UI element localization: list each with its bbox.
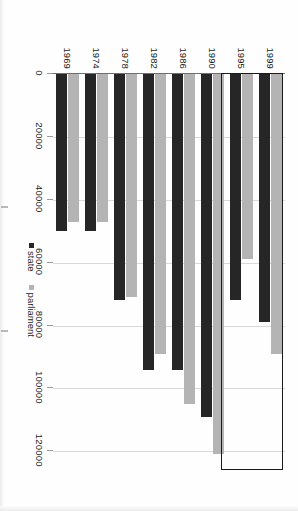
bar-parliament-1990 (213, 74, 224, 454)
bar-parliament-1999 (271, 74, 282, 354)
legend-swatch-state (29, 243, 34, 248)
value-tick-label-120000: 120000 (34, 433, 45, 466)
value-tick (47, 198, 53, 199)
bar-state-1986 (172, 74, 183, 370)
category-label-1982: 1982 (150, 31, 160, 69)
value-tick-label-20000: 20000 (34, 122, 45, 149)
category-label-1969: 1969 (63, 31, 73, 69)
plot-area (53, 73, 285, 467)
category-axis: 19991995199019861982197819741969 (53, 31, 285, 73)
bar-state-1999 (259, 74, 270, 322)
bar-group-1982 (143, 74, 166, 467)
bar-parliament-1995 (242, 74, 253, 259)
bar-group-1990 (201, 74, 224, 467)
bar-state-1978 (114, 74, 125, 300)
bar-group-1999 (259, 74, 282, 467)
bar-state-1969 (56, 74, 67, 231)
category-label-1974: 1974 (92, 31, 102, 69)
value-tick (47, 73, 53, 74)
legend-label-state: state (26, 251, 37, 272)
value-tick-label-100000: 100000 (34, 370, 45, 403)
legend-label-parliament: parliament (26, 292, 37, 336)
bar-chart: 19991995199019861982197819741969 0200004… (13, 31, 285, 481)
category-label-1999: 1999 (266, 31, 276, 69)
category-label-1990: 1990 (208, 31, 218, 69)
category-label-1978: 1978 (121, 31, 131, 69)
bar-group-1969 (56, 74, 79, 467)
page-edge-shadow-left (0, 0, 4, 511)
bar-group-1978 (114, 74, 137, 467)
value-tick (47, 450, 53, 451)
bar-group-1995 (230, 74, 253, 467)
page-margin-mark-upper (1, 206, 8, 208)
bar-parliament-1978 (126, 74, 137, 297)
chart-legend: stateparliament (26, 243, 37, 337)
bar-parliament-1969 (68, 74, 79, 222)
category-label-1986: 1986 (179, 31, 189, 69)
legend-swatch-parliament (29, 284, 34, 289)
scanned-page: 19991995199019861982197819741969 0200004… (0, 0, 298, 511)
bar-parliament-1982 (155, 74, 166, 354)
bar-parliament-1974 (97, 74, 108, 222)
value-tick-label-40000: 40000 (34, 185, 45, 212)
value-tick (47, 324, 53, 325)
rotated-figure-wrapper: 19991995199019861982197819741969 0200004… (13, 31, 285, 481)
bar-state-1995 (230, 74, 241, 300)
value-tick (47, 261, 53, 262)
page-margin-mark-lower (1, 330, 8, 332)
bar-group-1986 (172, 74, 195, 467)
value-tick (47, 387, 53, 388)
bar-state-1990 (201, 74, 212, 417)
bar-group-1974 (85, 74, 108, 467)
page-edge-shadow-bottom (0, 506, 298, 511)
bar-state-1974 (85, 74, 96, 231)
value-tick (47, 135, 53, 136)
legend-item-parliament: parliament (26, 284, 37, 336)
value-tick-label-0: 0 (34, 70, 45, 75)
bar-state-1982 (143, 74, 154, 370)
bar-parliament-1986 (184, 74, 195, 404)
legend-item-state: state (26, 243, 37, 272)
category-label-1995: 1995 (237, 31, 247, 69)
